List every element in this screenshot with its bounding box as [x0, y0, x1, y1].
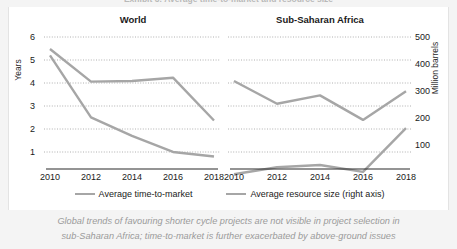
left-axis-tick-3: 3 — [11, 101, 35, 111]
figure-caption: Global trends of favouring shorter cycle… — [8, 214, 449, 244]
right-axis-tick-500: 500 — [415, 32, 445, 42]
series-line-resource-size-ssa — [234, 81, 406, 120]
figure-caption-line-2: sub-Saharan Africa; time-to-market is fu… — [8, 229, 449, 244]
left-axis-tick-5: 5 — [11, 55, 35, 65]
right-axis-tick-100: 100 — [415, 140, 445, 150]
legend-item-time-to-market: Average time-to-market — [75, 189, 193, 199]
left-axis-tick-2: 2 — [11, 124, 35, 134]
right-axis-tick-300: 300 — [415, 86, 445, 96]
x-axis-tick-ssa-2014: 2014 — [304, 172, 336, 182]
legend-label-resource-size: Average resource size (right axis) — [250, 189, 384, 199]
legend-item-resource-size: Average resource size (right axis) — [226, 189, 384, 199]
x-axis-tick-world-2010: 2010 — [34, 172, 66, 182]
x-axis-tick-ssa-2010: 2010 — [218, 172, 250, 182]
left-axis-tick-4: 4 — [11, 78, 35, 88]
chart-card: World Sub-Saharan Africa Years Million b… — [8, 7, 449, 210]
legend-swatch-icon-resource-size — [226, 193, 246, 196]
series-line-time-to-market-world — [50, 55, 214, 156]
figure-top-title-strip: Exhibit 3: Average time-to-market and re… — [0, 0, 457, 6]
x-axis-tick-ssa-2012: 2012 — [261, 172, 293, 182]
chart-plot-world — [44, 31, 220, 165]
legend-label-time-to-market: Average time-to-market — [99, 189, 193, 199]
x-axis-tick-ssa-2016: 2016 — [347, 172, 379, 182]
series-line-resource-size-world — [50, 49, 214, 121]
right-axis-tick-200: 200 — [415, 113, 445, 123]
left-axis-tick-1: 1 — [11, 147, 35, 157]
figure-top-title: Exhibit 3: Average time-to-market and re… — [0, 0, 457, 4]
panel-title-sub-saharan-africa: Sub-Saharan Africa — [227, 14, 413, 25]
left-axis-tick-6: 6 — [11, 32, 35, 42]
panel-title-world: World — [45, 14, 221, 25]
x-axis-tick-world-2016: 2016 — [157, 172, 189, 182]
legend-swatch-icon-time-to-market — [75, 193, 95, 196]
chart-legend: Average time-to-market Average resource … — [9, 189, 450, 199]
figure-caption-line-1: Global trends of favouring shorter cycle… — [8, 214, 449, 229]
x-axis-tick-world-2012: 2012 — [75, 172, 107, 182]
right-axis-tick-400: 400 — [415, 59, 445, 69]
series-line-time-to-market-ssa — [234, 128, 406, 174]
x-axis-tick-world-2014: 2014 — [116, 172, 148, 182]
chart-plot-sub-saharan-africa — [228, 31, 412, 165]
x-axis-tick-ssa-2018: 2018 — [390, 172, 422, 182]
